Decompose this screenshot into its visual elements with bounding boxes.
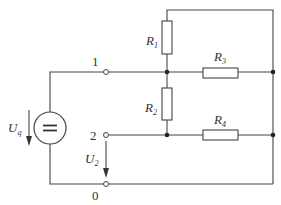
- circuit-diagram: Uq 1 2 0 R1 R2 R3 R4 U2: [0, 0, 281, 205]
- r4-label: R4: [213, 112, 226, 129]
- terminal-0: [104, 182, 109, 187]
- wire-top-right: [167, 10, 273, 184]
- u2-arrow-icon: [103, 141, 109, 178]
- junction-dot: [165, 133, 170, 138]
- resistor-r4: [203, 130, 238, 140]
- source-label: Uq: [8, 120, 21, 137]
- uq-arrow-icon: [26, 110, 32, 146]
- r3-label: R3: [213, 49, 226, 66]
- terminal-2: [104, 133, 109, 138]
- u2-label: U2: [85, 151, 98, 168]
- terminal-2-label: 2: [90, 128, 97, 143]
- resistor-r1: [162, 21, 172, 54]
- terminal-1-label: 1: [92, 54, 99, 69]
- terminal-1: [104, 70, 109, 75]
- terminal-0-label: 0: [92, 188, 99, 203]
- resistor-r3: [203, 68, 238, 78]
- junction-dot: [165, 70, 170, 75]
- wire-source-to-1: [50, 72, 103, 112]
- junction-dot: [271, 133, 276, 138]
- voltage-source-icon: [34, 112, 66, 144]
- r1-label: R1: [145, 33, 158, 50]
- r2-label: R2: [144, 100, 157, 117]
- resistor-r2: [162, 88, 172, 120]
- junction-dot: [271, 70, 276, 75]
